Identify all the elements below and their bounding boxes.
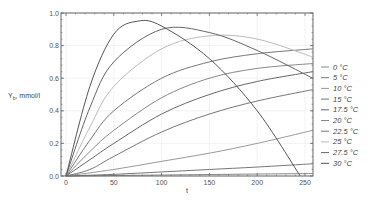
y-tick-label: 0.4 xyxy=(49,107,59,114)
y-tick-label: 0.8 xyxy=(49,42,59,49)
legend-item: 30 °C xyxy=(321,159,352,168)
legend-label: 0 °C xyxy=(333,63,348,72)
legend-item: 10 °C xyxy=(321,84,352,93)
legend-label: 30 °C xyxy=(333,159,352,168)
legend-label: 20 °C xyxy=(332,116,352,125)
legend-item: 15 °C xyxy=(321,95,352,104)
x-tick-label: 50 xyxy=(110,179,118,186)
y-axis-label: Yb, mmol/l xyxy=(8,92,40,101)
y-tick-label: 0.6 xyxy=(49,75,59,82)
x-axis-label: t xyxy=(186,187,188,194)
legend-item: 27.5 °C xyxy=(321,148,359,157)
legend-label: 15 °C xyxy=(333,95,352,104)
legend-item: 22.5 °C xyxy=(321,127,359,136)
legend: 0 °C5 °C10 °C15 °C17.5 °C20 °C22.5 °C25 … xyxy=(321,63,359,168)
x-tick-label: 200 xyxy=(251,179,263,186)
curve-30c xyxy=(66,20,300,176)
x-tick-label: 100 xyxy=(156,179,168,186)
legend-label: 27.5 °C xyxy=(332,148,359,157)
curve-20c xyxy=(66,64,313,176)
y-tick-label: 0.2 xyxy=(49,140,59,147)
plot-frame xyxy=(61,13,313,176)
legend-item: 20 °C xyxy=(321,116,352,125)
legend-item: 17.5 °C xyxy=(321,105,359,114)
legend-item: 25 °C xyxy=(321,137,352,146)
data-curves xyxy=(66,20,313,176)
legend-label: 22.5 °C xyxy=(332,127,359,136)
curve-25c xyxy=(66,35,313,176)
curve-15c xyxy=(66,90,313,176)
x-tick-label: 150 xyxy=(204,179,216,186)
legend-label: 10 °C xyxy=(333,84,352,93)
legend-label: 25 °C xyxy=(332,137,352,146)
x-tick-label: 0 xyxy=(64,179,68,186)
y-tick-label: 1.0 xyxy=(49,10,59,17)
legend-item: 5 °C xyxy=(321,73,348,82)
legend-item: 0 °C xyxy=(321,63,348,72)
legend-label: 17.5 °C xyxy=(333,105,359,114)
curve-17.5c xyxy=(66,72,313,176)
grid-lines xyxy=(61,13,313,176)
x-tick-label: 250 xyxy=(299,179,311,186)
line-chart: 050100150200250 0.00.20.40.60.81.0 t Yb,… xyxy=(0,0,371,205)
y-tick-label: 0.0 xyxy=(49,173,59,180)
y-axis-ticks: 0.00.20.40.60.81.0 xyxy=(49,10,313,180)
legend-label: 5 °C xyxy=(333,73,348,82)
